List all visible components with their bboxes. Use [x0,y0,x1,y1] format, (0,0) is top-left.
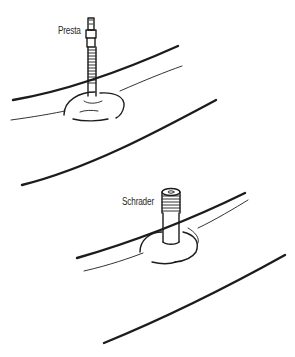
presta-valve-drawing [86,18,96,96]
presta-tube-drawing [11,46,216,185]
schrader-label: Schrader [122,196,154,207]
schrader-tube-drawing [77,193,285,343]
valve-illustration [0,0,295,357]
presta-label: Presta [58,25,81,36]
schrader-valve-drawing [162,189,180,245]
